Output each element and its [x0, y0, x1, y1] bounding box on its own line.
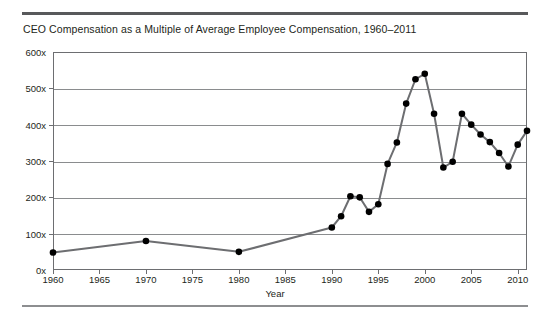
x-tick-mark: [332, 270, 333, 274]
x-tick-label: 1960: [42, 274, 63, 285]
y-tick-label: 600x: [25, 47, 46, 58]
x-tick-mark: [285, 270, 286, 274]
x-tick-mark: [518, 270, 519, 274]
y-tick-label: 200x: [25, 192, 46, 203]
bottom-rule: [22, 305, 528, 307]
x-tick-mark: [146, 270, 147, 274]
x-tick-label: 2000: [414, 274, 435, 285]
x-tick-mark: [53, 270, 54, 274]
x-tick-label: 2010: [507, 274, 528, 285]
top-rule: [22, 12, 528, 15]
x-tick-label: 1990: [321, 274, 342, 285]
y-tick-label: 400x: [25, 119, 46, 130]
x-tick-mark: [378, 270, 379, 274]
x-tick-mark: [99, 270, 100, 274]
y-tick-label: 100x: [25, 228, 46, 239]
x-tick-label: 1980: [228, 274, 249, 285]
x-tick-label: 2005: [461, 274, 482, 285]
x-tick-label: 1985: [275, 274, 296, 285]
x-tick-mark: [471, 270, 472, 274]
plot-area: [53, 52, 527, 270]
x-tick-mark: [425, 270, 426, 274]
gridline: [54, 89, 526, 90]
gridline: [54, 125, 526, 126]
x-axis-title: Year: [0, 288, 550, 299]
x-tick-mark: [192, 270, 193, 274]
x-tick-mark: [239, 270, 240, 274]
y-tick-mark: [49, 125, 53, 126]
y-tick-mark: [49, 88, 53, 89]
y-axis: 0x100x200x300x400x500x600x: [0, 0, 53, 318]
x-tick-label: 1975: [182, 274, 203, 285]
y-tick-label: 500x: [25, 83, 46, 94]
gridline: [54, 234, 526, 235]
x-tick-label: 1995: [368, 274, 389, 285]
chart-title: CEO Compensation as a Multiple of Averag…: [23, 23, 416, 35]
gridlines: [54, 53, 526, 269]
gridline: [54, 198, 526, 199]
chart-figure: CEO Compensation as a Multiple of Averag…: [0, 0, 550, 318]
y-tick-label: 300x: [25, 156, 46, 167]
y-tick-mark: [49, 197, 53, 198]
y-tick-mark: [49, 234, 53, 235]
x-tick-label: 1970: [135, 274, 156, 285]
gridline: [54, 162, 526, 163]
x-tick-label: 1965: [89, 274, 110, 285]
y-tick-mark: [49, 161, 53, 162]
